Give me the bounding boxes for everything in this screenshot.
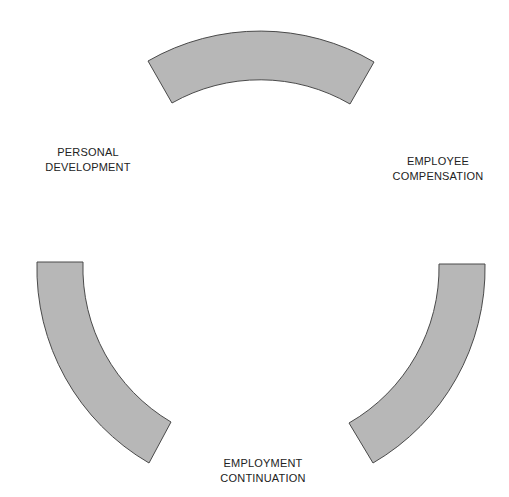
arc-segment-right [349, 264, 485, 463]
label-line: CONTINUATION [209, 471, 317, 486]
label-line: EMPLOYMENT [209, 456, 317, 471]
label-line: DEVELOPMENT [38, 160, 138, 175]
label-employee-compensation: EMPLOYEE COMPENSATION [385, 154, 491, 184]
label-personal-development: PERSONAL DEVELOPMENT [38, 145, 138, 175]
label-employment-continuation: EMPLOYMENT CONTINUATION [209, 456, 317, 486]
label-line: COMPENSATION [385, 169, 491, 184]
label-line: EMPLOYEE [385, 154, 491, 169]
arc-segment-top [148, 31, 374, 104]
label-line: PERSONAL [38, 145, 138, 160]
arc-segment-left [37, 262, 171, 463]
cycle-diagram [0, 0, 509, 497]
